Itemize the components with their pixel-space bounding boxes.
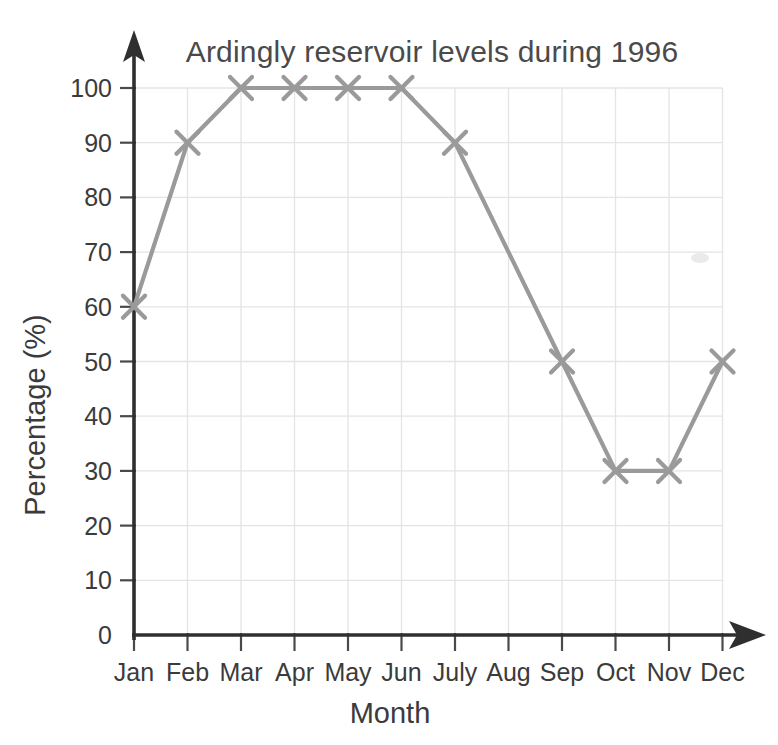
y-tick-label: 60 xyxy=(84,293,112,321)
scan-smudge xyxy=(691,253,709,263)
y-tick-label: 20 xyxy=(84,512,112,540)
x-tick-label: Apr xyxy=(275,658,314,686)
x-tick-label: July xyxy=(433,658,478,686)
gridlines xyxy=(134,88,723,635)
x-axis-title: Month xyxy=(350,697,431,729)
x-tick-label: Feb xyxy=(166,658,209,686)
x-tick-label: Sep xyxy=(540,658,584,686)
x-axis-tick-labels: JanFebMarAprMayJunJulyAugSepOctNovDec xyxy=(114,658,745,686)
x-tick-label: Aug xyxy=(486,658,530,686)
y-tick-label: 100 xyxy=(70,74,112,102)
data-point-markers xyxy=(123,77,734,482)
y-tick-label: 80 xyxy=(84,183,112,211)
y-tick-label: 40 xyxy=(84,402,112,430)
y-tick-label: 50 xyxy=(84,348,112,376)
x-tick-label: Jan xyxy=(114,658,154,686)
y-tick-label: 30 xyxy=(84,457,112,485)
x-tick-label: Jun xyxy=(381,658,421,686)
y-axis-title: Percentage (%) xyxy=(19,314,51,516)
x-tick-label: Mar xyxy=(219,658,262,686)
y-tick-label: 90 xyxy=(84,129,112,157)
data-line-reservoir-level xyxy=(134,88,723,471)
chart-title: Ardingly reservoir levels during 1996 xyxy=(186,35,679,68)
x-tick-label: Dec xyxy=(700,658,744,686)
y-axis-tick-labels: 0102030405060708090100 xyxy=(70,74,112,649)
x-tick-label: May xyxy=(324,658,372,686)
line-chart: 0102030405060708090100 JanFebMarAprMayJu… xyxy=(0,0,778,745)
x-tick-label: Oct xyxy=(596,658,635,686)
y-tick-label: 70 xyxy=(84,238,112,266)
y-tick-label: 0 xyxy=(98,621,112,649)
y-tick-label: 10 xyxy=(84,566,112,594)
chart-canvas: 0102030405060708090100 JanFebMarAprMayJu… xyxy=(0,0,778,745)
x-tick-label: Nov xyxy=(647,658,692,686)
